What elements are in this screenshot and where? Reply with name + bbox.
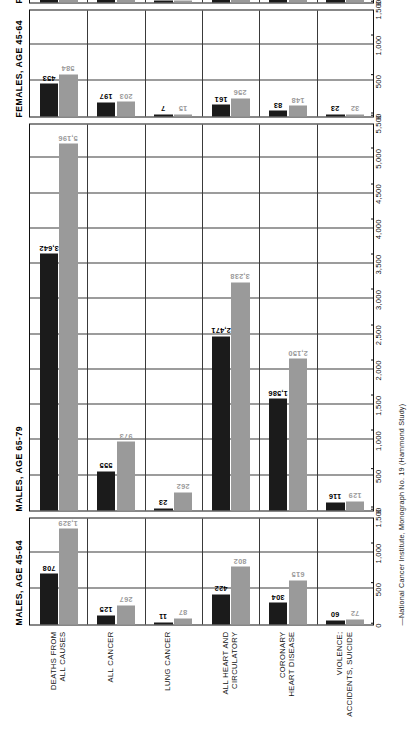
axis-tick-label: 1,000 [374,35,383,55]
bar: 973 [117,441,135,510]
bar-group: 1187 [154,618,192,624]
bar: 83 [269,110,287,116]
bar-value-label: 708 [42,563,55,572]
bar: 555 [97,471,115,510]
axis-tick-mark [371,542,374,543]
bar: 2,867 [59,0,77,2]
bar: 584 [59,74,77,116]
chart-panel: FEMALES, AGE 45-644535841972037151612568… [14,9,374,117]
axis-tick-mark [371,581,374,582]
bar-value-label: 23 [159,498,168,507]
bar: 7 [154,114,172,116]
bar-group: 9031,029 [269,0,307,2]
axis-tick-label: 0 [374,509,383,513]
bar: 5,196 [59,143,77,510]
axis-tick-mark [371,34,374,35]
bar-value-label: 32 [351,103,360,112]
bar-group: 555973 [97,441,135,510]
axis-tick-mark [371,394,374,395]
bar-group: 125267 [97,605,135,624]
axis-tick-mark [371,508,374,509]
chart-panel: FEMALES, AGE 65-792,3312,86751857217301,… [14,0,374,3]
bar-group: 304615 [269,580,307,624]
category-label-column: DEATHS FROM ALL CAUSESALL CANCERLUNG CAN… [14,625,374,743]
axis-tick-mark [371,468,374,469]
bar: 1,586 [269,398,287,510]
panel-title: FEMALES, AGE 45-64 [14,9,26,117]
bar-value-label: 87 [179,607,188,616]
chart-page: DEATHS FROM ALL CAUSESALL CANCERLUNG CAN… [0,0,412,755]
bar: 903 [269,0,287,2]
bar-value-label: 304 [272,592,285,601]
bar-value-label: 3,238 [231,271,251,280]
bar: 23 [326,114,344,116]
bar: 60 [326,620,344,624]
bar-group: 1,5862,150 [269,358,307,510]
panel-title: FEMALES, AGE 65-79 [14,0,26,3]
bar-value-label: 203 [119,91,132,100]
panels-row: DEATHS FROM ALL CAUSESALL CANCERLUNG CAN… [14,10,374,743]
bar-value-label: 161 [214,94,227,103]
bar: 267 [117,605,135,624]
bar-value-label: 1,586 [268,388,288,397]
axis-tick-label: 3,500 [374,254,383,274]
row-separator [87,10,88,116]
bar-value-label: 7 [161,104,165,113]
bar-value-label: 2,471 [211,325,231,334]
axis-tick-label: 2,500 [374,325,383,345]
row-separator [259,0,260,2]
bar-group: 5164 [326,0,364,2]
bar: 32 [346,114,364,116]
bar-group: 83148 [269,105,307,116]
bar: 3,238 [231,282,249,510]
row-separator [317,0,318,2]
panel-title: MALES, AGE 65-79 [14,123,26,511]
bar-value-label: 262 [177,481,190,490]
axis-tick-label: 2,000 [374,360,383,380]
bar-group: 1,4341,831 [212,0,250,2]
bar-value-label: 15 [179,104,188,113]
bar: 256 [231,98,249,116]
row-separator [202,10,203,116]
bar-value-label: 453 [42,73,55,82]
axis-tick-label: 0 [374,115,383,119]
axis-tick-mark [371,114,374,115]
bar-group: 23262 [154,492,192,510]
row-separator [317,518,318,624]
row-separator [317,10,318,116]
row-separator [202,518,203,624]
bar: 129 [346,501,364,510]
axis-tick-label: 5,000 [374,148,383,168]
axis-tick-label: 500 [374,74,383,87]
bar-group: 161256 [212,98,250,116]
chart-sheet: DEATHS FROM ALL CAUSESALL CANCERLUNG CAN… [0,0,412,755]
bar: 2,150 [289,358,307,510]
bar: 87 [174,618,192,624]
chart-panel: MALES, AGE 65-793,6425,196555973232622,4… [14,123,374,511]
axis-tick-mark [371,288,374,289]
bar: 304 [269,602,287,624]
bar-value-label: 5,196 [59,133,79,142]
bar: 125 [97,615,115,624]
bar: 572 [117,0,135,2]
category-label: LUNG CANCER [163,631,172,690]
bar: 453 [40,83,58,116]
bar: 148 [289,105,307,116]
bar: 1,831 [231,0,249,2]
axis-tick-label: 500 [374,469,383,482]
bar-value-label: 72 [351,608,360,617]
bar-value-label: 3,642 [39,243,59,252]
axis-tick-mark [371,622,374,623]
bar: 30 [174,0,192,2]
plot-area: 453584197203715161256831482332 [29,9,374,117]
bar-value-label: 83 [274,100,283,109]
category-label: VIOLENCE; ACCIDENTS, SUICIDE [335,631,353,716]
category-label: CORONARY HEART DISEASE [278,631,296,696]
bar: 802 [231,566,249,624]
bar: 116 [326,502,344,510]
row-separator [87,124,88,510]
axis-tick-label: 1,500 [374,395,383,415]
row-separator [87,518,88,624]
axis-tick-mark [371,506,374,507]
bar-value-label: 197 [100,91,113,100]
